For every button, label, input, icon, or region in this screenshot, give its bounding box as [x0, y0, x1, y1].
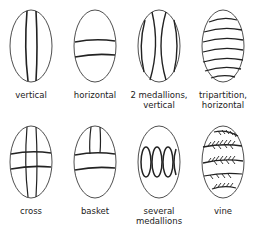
egg-vine-icon [200, 124, 246, 200]
egg-two-medallions: 2 medallions, vertical [128, 8, 190, 110]
label-vine: vine [192, 206, 254, 216]
egg-several-medallions: several medallions [128, 124, 190, 226]
label-two-medallions: 2 medallions, vertical [128, 90, 190, 110]
egg-tripartition: tripartition, horizontal [192, 8, 254, 110]
egg-vertical-icon [8, 8, 54, 84]
egg-two-medallions-icon [136, 8, 182, 84]
egg-vertical: vertical [0, 8, 62, 100]
egg-cross: cross [0, 124, 62, 216]
egg-horizontal-icon [72, 8, 118, 84]
egg-cross-icon [8, 124, 54, 200]
egg-basket: basket [64, 124, 126, 216]
label-cross: cross [0, 206, 62, 216]
label-tripartition: tripartition, horizontal [192, 90, 254, 110]
label-basket: basket [64, 206, 126, 216]
label-horizontal: horizontal [64, 90, 126, 100]
label-vertical: vertical [0, 90, 62, 100]
egg-vine: vine [192, 124, 254, 216]
label-several-medallions: several medallions [128, 206, 190, 226]
egg-tripartition-icon [200, 8, 246, 84]
egg-horizontal: horizontal [64, 8, 126, 100]
egg-several-medallions-icon [136, 124, 182, 200]
egg-basket-icon [72, 124, 118, 200]
